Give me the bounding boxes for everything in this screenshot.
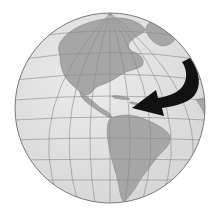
globe-svg <box>0 0 222 220</box>
globe-figure: Orthographic globe centered on the Ameri… <box>0 0 222 220</box>
